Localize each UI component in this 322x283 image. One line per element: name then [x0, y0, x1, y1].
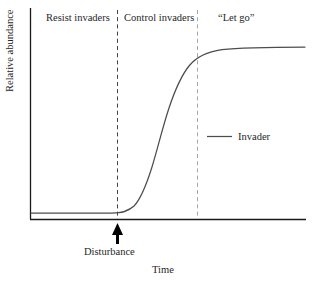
x-axis-label: Time — [152, 264, 174, 276]
phase-label-resist: Resist invaders — [46, 12, 110, 24]
disturbance-arrow-icon — [112, 223, 123, 244]
invader-curve — [31, 47, 305, 213]
phase-label-let-go: “Let go” — [218, 12, 254, 24]
y-axis-label: Relative abundance — [4, 9, 16, 92]
chart-canvas — [0, 0, 322, 283]
figure-container: Resist invaders Control invaders “Let go… — [0, 0, 322, 283]
phase-label-control: Control invaders — [124, 12, 194, 24]
disturbance-label: Disturbance — [84, 246, 135, 258]
legend-entry-invader: Invader — [238, 131, 270, 143]
